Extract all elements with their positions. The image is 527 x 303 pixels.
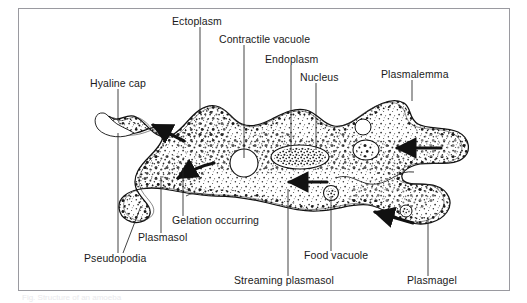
label-ectoplasm: Ectoplasm <box>172 16 222 27</box>
label-food-vacuole: Food vacuole <box>304 250 368 261</box>
label-nucleus: Nucleus <box>300 72 339 83</box>
label-plasmagel: Plasmagel <box>407 275 457 286</box>
label-streaming-plasmasol: Streaming plasmasol <box>234 275 334 286</box>
label-endoplasm: Endoplasm <box>265 54 318 65</box>
label-pseudopodia: Pseudopodia <box>84 253 146 264</box>
clear-vesicle-upper <box>355 119 371 135</box>
food-vacuole-body-3 <box>400 205 412 217</box>
amoeba-diagram <box>0 0 527 303</box>
gelation-zone <box>132 155 204 189</box>
label-hyaline-cap: Hyaline cap <box>90 78 146 89</box>
label-plasmalemma: Plasmalemma <box>381 69 449 80</box>
label-plasmasol: Plasmasol <box>138 232 187 243</box>
food-vacuole-body-2 <box>353 140 379 160</box>
label-contractile-vacuole: Contractile vacuole <box>219 34 310 45</box>
label-gelation-occurring: Gelation occurring <box>172 215 259 226</box>
nucleus-body <box>271 145 329 169</box>
figure-caption-partial: Fig. Structure of an amoeba <box>22 293 492 302</box>
